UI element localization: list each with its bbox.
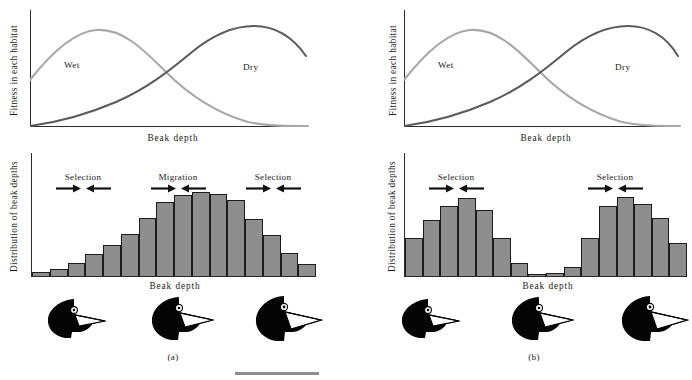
annotation-label: Selection <box>36 172 130 182</box>
bar <box>85 254 103 276</box>
bar <box>669 243 687 276</box>
bar <box>564 267 582 276</box>
annotation-arrows <box>131 184 225 193</box>
panel-a-fitness-ylabel: Fitness in each habitat <box>9 12 21 130</box>
panel-b-histogram-xlabel: Beak depth <box>483 281 613 291</box>
bar <box>458 198 476 276</box>
bar <box>546 273 564 276</box>
panel-a-annotation-selection-right: Selection <box>226 172 320 193</box>
panel-a-caption: (a) <box>153 352 193 362</box>
annotation-arrows <box>36 184 130 193</box>
panel-a-annotation-migration: Migration <box>131 172 225 193</box>
bar <box>121 234 139 276</box>
arrow-right-icon <box>246 184 272 193</box>
panel-b-annotation-selection-right: Selection <box>568 172 662 193</box>
panel-a-medium-beak-finch <box>148 295 224 343</box>
bar <box>263 235 281 276</box>
arrow-left-icon <box>458 184 484 193</box>
arrow-right-icon <box>56 184 82 193</box>
bar <box>210 194 228 276</box>
panel-a-large-beak-finch <box>252 294 332 344</box>
bar <box>581 238 599 276</box>
panel-b-histogram-chart: Distribution of beak depths Selection <box>346 150 692 290</box>
bar <box>68 263 86 276</box>
bar <box>493 238 511 276</box>
panel-a-annotation-selection-left: Selection <box>36 172 130 193</box>
bar <box>174 195 192 276</box>
bar <box>652 218 670 276</box>
panel-a-wet-curve-label: Wet <box>64 60 80 70</box>
annotation-label: Migration <box>131 172 225 182</box>
bar <box>599 206 617 276</box>
bar <box>440 206 458 276</box>
bar <box>405 238 423 276</box>
panel-b-small-beak-finch <box>398 297 470 341</box>
arrow-left-icon <box>275 184 301 193</box>
legend-swatch <box>235 372 319 375</box>
figure-legend <box>235 372 328 375</box>
arrow-left-icon <box>180 184 206 193</box>
panel-b-caption: (b) <box>514 352 554 362</box>
panel-a-dry-curve-label: Dry <box>243 62 259 72</box>
bar <box>139 218 157 276</box>
panel-b-histogram-ylabel: Distribution of beak depths <box>387 154 399 280</box>
panel-a-fitness-chart: Fitness in each habitat Wet Dry Beak dep… <box>0 0 346 150</box>
arrow-left-icon <box>617 184 643 193</box>
panel-b-medium-beak-finch <box>508 295 584 343</box>
panel-b-large-beak-finch <box>618 294 692 344</box>
panel-b-histogram-xaxis <box>404 276 687 277</box>
panel-a-small-beak-finch <box>44 297 116 341</box>
bar <box>617 197 635 276</box>
annotation-arrows <box>409 184 503 193</box>
annotation-label: Selection <box>568 172 662 182</box>
panel-a-histogram-xlabel: Beak depth <box>110 281 240 291</box>
panel-a-histogram-xaxis <box>31 276 316 277</box>
bar <box>245 219 263 276</box>
panel-b-fitness-chart: Fitness in each habitat Wet Dry Beak dep… <box>346 0 692 150</box>
panel-b-dry-curve-label: Dry <box>615 62 631 72</box>
arrow-right-icon <box>588 184 614 193</box>
bar <box>511 263 529 276</box>
bar <box>156 202 174 276</box>
panel-a-histogram-ylabel: Distribution of beak depths <box>9 154 21 280</box>
bar <box>298 264 316 276</box>
annotation-label: Selection <box>409 172 503 182</box>
bar <box>281 253 299 276</box>
annotation-arrows <box>226 184 320 193</box>
panel-a-fitness-xlabel: Beak depth <box>108 133 238 143</box>
panel-b-fitness-xlabel: Beak depth <box>481 133 611 143</box>
panel-a-histogram-chart: Distribution of beak depths Selection <box>0 150 346 290</box>
bar <box>634 204 652 276</box>
arrow-left-icon <box>85 184 111 193</box>
bar <box>476 210 494 276</box>
panel-b-annotation-selection-left: Selection <box>409 172 503 193</box>
panel-a: Fitness in each habitat Wet Dry Beak dep… <box>0 0 346 380</box>
bar <box>192 192 210 276</box>
arrow-right-icon <box>151 184 177 193</box>
bar <box>423 220 441 276</box>
panel-b-wet-curve-label: Wet <box>438 60 454 70</box>
panel-b-fitness-ylabel: Fitness in each habitat <box>388 12 400 130</box>
annotation-label: Selection <box>226 172 320 182</box>
arrow-right-icon <box>429 184 455 193</box>
annotation-arrows <box>568 184 662 193</box>
bar <box>32 272 50 276</box>
bar <box>50 269 68 276</box>
bar <box>227 200 245 276</box>
panel-b: Fitness in each habitat Wet Dry Beak dep… <box>346 0 692 380</box>
bar <box>528 274 546 276</box>
bar <box>103 245 121 276</box>
